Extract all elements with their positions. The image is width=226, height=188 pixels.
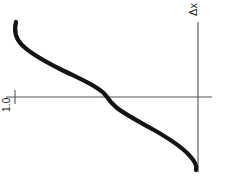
plot-area <box>0 0 226 188</box>
data-curve-sigmoid <box>15 22 196 170</box>
y-axis-title: Δx <box>188 3 199 16</box>
x-tick-label-1: 1.0 <box>2 97 12 112</box>
chart-figure: Δx 1.0 <box>0 0 226 188</box>
